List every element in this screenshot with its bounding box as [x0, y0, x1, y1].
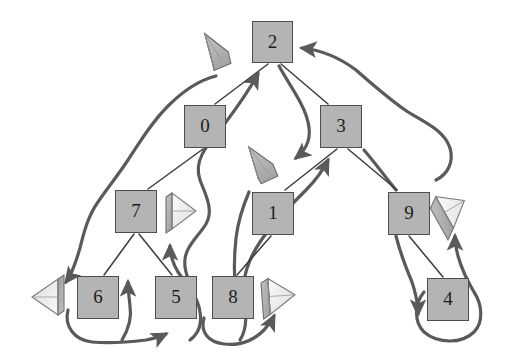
tree-edge-7-5: [139, 234, 172, 275]
tree-node-2[interactable]: 2: [252, 21, 293, 63]
tree-node-label: 4: [443, 289, 453, 308]
arrow-up-into-7-left: [122, 282, 131, 340]
tree-node-label: 3: [336, 116, 346, 135]
cone-right-of-9-icon: [427, 186, 477, 240]
tree-node-5[interactable]: 5: [155, 276, 197, 319]
tree-node-4[interactable]: 4: [427, 278, 469, 321]
tree-node-3[interactable]: 3: [320, 105, 362, 148]
cone-left-of-7-icon: [166, 193, 196, 233]
cone-top-left-icon: [195, 34, 237, 75]
diagram-canvas: 2 0 3 7 1 9 6 5 8 4: [0, 0, 511, 353]
tree-node-7[interactable]: 7: [115, 190, 157, 233]
tree-node-label: 0: [200, 116, 210, 135]
tree-node-1[interactable]: 1: [252, 192, 294, 235]
tree-edge-7-6: [104, 234, 134, 275]
tree-edge-0-7: [148, 149, 203, 189]
tree-edge-1-8: [237, 236, 271, 275]
arrow-9-down-to-4: [396, 236, 418, 314]
tree-node-label: 8: [228, 287, 238, 306]
tree-node-9[interactable]: 9: [388, 192, 430, 235]
cone-mid-center-icon: [240, 147, 283, 188]
tree-node-label: 2: [268, 32, 278, 51]
tree-node-6[interactable]: 6: [77, 276, 119, 319]
tree-node-0[interactable]: 0: [184, 105, 226, 148]
arrow-3-down-right: [364, 150, 396, 190]
tree-node-8[interactable]: 8: [212, 276, 254, 319]
tree-node-label: 6: [93, 287, 103, 306]
arrow-down-to-cone-mid: [279, 66, 309, 158]
tree-edge-3-9: [348, 149, 397, 190]
tree-node-label: 9: [404, 203, 414, 222]
tree-node-label: 1: [268, 203, 278, 222]
cone-far-left-icon: [32, 275, 64, 315]
tree-node-label: 5: [171, 287, 181, 306]
cone-right-of-8-icon: [261, 277, 297, 319]
tree-edge-9-4: [409, 236, 443, 277]
tree-node-label: 7: [131, 201, 141, 220]
